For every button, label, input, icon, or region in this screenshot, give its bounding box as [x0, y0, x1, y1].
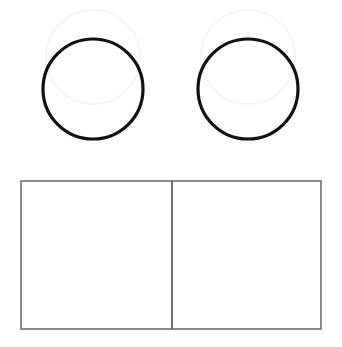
- diagram-canvas: [0, 0, 342, 347]
- squares-layer: [21, 181, 321, 329]
- faint-circles-layer: [46, 10, 295, 104]
- right-faint-circle: [201, 10, 295, 104]
- right-square: [172, 181, 321, 329]
- circles-layer: [43, 39, 298, 139]
- left-faint-circle: [46, 10, 140, 104]
- left-square: [21, 181, 172, 329]
